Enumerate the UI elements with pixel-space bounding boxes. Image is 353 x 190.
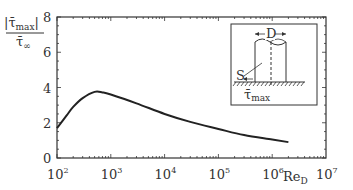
- x-tick-label: 105: [208, 166, 230, 182]
- x-tick-label: 107: [316, 166, 338, 182]
- separation-point-label: S: [236, 68, 245, 83]
- x-tick-label: 102: [47, 166, 69, 182]
- y-tick-label: 4: [43, 81, 51, 96]
- x-tick-label: 103: [101, 166, 123, 182]
- inset-diagram: D S τ̄max: [231, 24, 317, 105]
- diameter-label: D: [266, 26, 276, 41]
- x-axis-label: ReD: [283, 169, 308, 186]
- y-tick-label: 0: [43, 151, 51, 166]
- y-tick-label: 2: [43, 116, 51, 131]
- svg-text:τ̄∞: τ̄∞: [16, 34, 31, 51]
- y-axis-tick-labels: 02468: [43, 10, 51, 166]
- y-tick-label: 6: [43, 45, 51, 60]
- chart-canvas: 102103104105106107 02468 |τ̄max| τ̄∞ ReD…: [0, 0, 353, 190]
- y-tick-label: 8: [43, 10, 51, 25]
- x-tick-label: 104: [155, 166, 177, 182]
- svg-text:|τ̄max|: |τ̄max|: [4, 15, 39, 32]
- y-axis-label: |τ̄max| τ̄∞: [4, 15, 44, 51]
- x-tick-label: 106: [262, 166, 284, 182]
